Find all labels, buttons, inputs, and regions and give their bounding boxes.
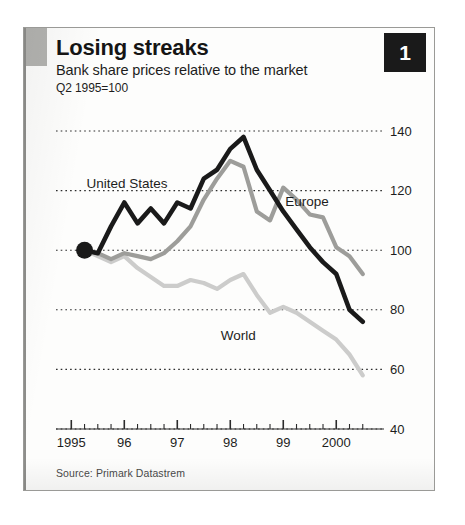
x-tick-label: 97 [170, 435, 184, 450]
origin-dot [76, 242, 93, 259]
x-tick-label: 1995 [57, 435, 86, 450]
y-tick-label: 80 [390, 302, 404, 317]
figure-card: Losing streaks Bank share prices relativ… [23, 27, 435, 491]
series-label-world: World [221, 328, 256, 343]
plot-area: 406080100120140 1995969798992000 United … [24, 28, 436, 492]
y-tick-label: 120 [390, 183, 412, 198]
x-axis-labels: 1995969798992000 [57, 435, 351, 450]
line-chart: 406080100120140 1995969798992000 United … [24, 28, 436, 492]
origin-marker [76, 242, 93, 259]
y-tick-label: 140 [390, 124, 412, 139]
x-tick-label: 2000 [322, 435, 351, 450]
source-note: Source: Primark Datastrem [56, 467, 185, 479]
y-tick-label: 60 [390, 362, 404, 377]
y-axis-labels: 406080100120140 [390, 124, 412, 437]
series-line-united-states [85, 137, 363, 322]
x-axis [56, 420, 384, 429]
x-tick-label: 98 [223, 435, 237, 450]
x-tick-label: 96 [117, 435, 131, 450]
x-tick-label: 99 [276, 435, 290, 450]
y-tick-label: 40 [390, 422, 404, 437]
series-label-united-states: United States [86, 176, 167, 191]
y-tick-label: 100 [390, 243, 412, 258]
series-line-world [85, 250, 363, 375]
series-label-europe: Europe [285, 194, 329, 209]
